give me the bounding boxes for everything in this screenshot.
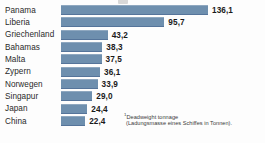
bar-track: 95,7: [61, 16, 265, 28]
category-label: Singapur: [0, 92, 61, 101]
category-label: China: [0, 117, 61, 126]
category-label: Zypern: [0, 67, 61, 76]
bar-row: Liberia95,7: [0, 16, 265, 28]
footnote-line-2: (Ladungsmasse eines Schiffes in Tonnen).: [124, 120, 264, 127]
bar: [61, 30, 108, 40]
bar: [61, 79, 98, 89]
bar-value-label: 29,0: [96, 92, 112, 101]
bar: [61, 42, 102, 52]
bar-value-label: 43,2: [112, 30, 128, 39]
category-label: Liberia: [0, 18, 61, 27]
category-label: Japan: [0, 104, 61, 113]
bar-row: Singapur29,0: [0, 90, 265, 102]
bar: [61, 104, 87, 114]
bar-value-label: 22,4: [89, 117, 105, 126]
footnote: 1Deadweight tonnage (Ladungsmasse eines …: [124, 112, 264, 127]
bar-row: Malta37,5: [0, 53, 265, 65]
bar-value-label: 33,9: [102, 80, 118, 89]
bar: [61, 17, 164, 27]
bar-rows: Panama136,1Liberia95,7Griechenland43,2Ba…: [0, 4, 265, 127]
category-label: Norwegen: [0, 80, 61, 89]
bar-track: 43,2: [61, 29, 265, 41]
bar-row: Griechenland43,2: [0, 29, 265, 41]
bar-value-label: 24,4: [91, 104, 107, 113]
bar-row: Bahamas38,3: [0, 41, 265, 53]
bar-row: Zypern36,1: [0, 66, 265, 78]
bar-track: 33,9: [61, 78, 265, 90]
bar-track: 29,0: [61, 90, 265, 102]
category-label: Malta: [0, 55, 61, 64]
category-label: Griechenland: [0, 30, 61, 39]
bar-track: 36,1: [61, 66, 265, 78]
bar: [61, 91, 92, 101]
bar: [61, 67, 100, 77]
bar: [61, 54, 102, 64]
bar-value-label: 136,1: [212, 6, 233, 15]
bar-row: Norwegen33,9: [0, 78, 265, 90]
bar: [61, 5, 208, 15]
bar-track: 136,1: [61, 4, 265, 16]
bar-value-label: 37,5: [106, 55, 122, 64]
bar-chart: Panama136,1Liberia95,7Griechenland43,2Ba…: [0, 0, 265, 143]
footnote-line-1: Deadweight tonnage: [126, 114, 178, 120]
category-label: Bahamas: [0, 43, 61, 52]
bar-value-label: 38,3: [106, 43, 122, 52]
bar: [61, 116, 85, 126]
category-label: Panama: [0, 6, 61, 15]
bar-value-label: 36,1: [104, 67, 120, 76]
bar-track: 37,5: [61, 53, 265, 65]
bar-row: Panama136,1: [0, 4, 265, 16]
bar-value-label: 95,7: [168, 18, 184, 27]
bar-track: 38,3: [61, 41, 265, 53]
